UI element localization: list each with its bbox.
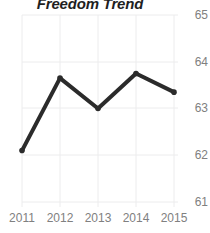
y-axis-tick-62: 62: [195, 149, 208, 161]
plot-area: 65 64 63 62 61 2011 2012 2013 2014 2015: [0, 0, 210, 233]
y-axis-tick-64: 64: [195, 56, 208, 68]
x-axis-tick-2015: 2015: [152, 212, 196, 224]
y-axis-tick-65: 65: [195, 9, 208, 21]
y-axis-tick-61: 61: [195, 196, 208, 208]
data-point-2015: [171, 89, 177, 95]
data-point-2011: [19, 148, 25, 154]
data-point-2013: [95, 106, 101, 112]
data-point-2014: [133, 71, 139, 77]
y-axis-tick-63: 63: [195, 102, 208, 114]
line-chart: Freedom Trend 65 64 63: [0, 0, 210, 233]
chart-canvas: [0, 0, 210, 233]
data-point-2012: [57, 75, 63, 81]
